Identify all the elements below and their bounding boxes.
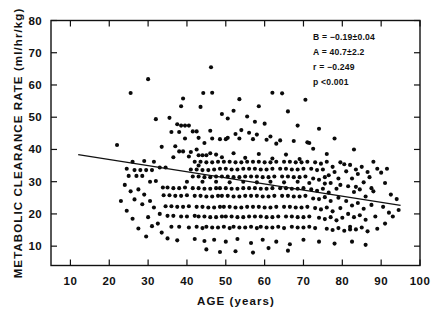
data-point: [235, 237, 239, 241]
data-point: [220, 194, 224, 198]
data-point: [280, 91, 284, 95]
data-point: [338, 160, 342, 164]
data-point: [154, 179, 158, 183]
data-point: [210, 136, 214, 140]
data-point: [123, 183, 127, 187]
data-point: [224, 214, 228, 218]
data-point: [197, 164, 201, 168]
x-tick-label: 20: [102, 275, 116, 287]
data-point: [331, 209, 335, 213]
data-point: [311, 147, 315, 151]
data-point: [214, 215, 218, 219]
y-tick-label: 50: [28, 111, 42, 123]
data-point: [167, 116, 171, 120]
data-point: [197, 186, 201, 190]
data-point: [313, 206, 317, 210]
data-point: [375, 167, 379, 171]
data-point: [263, 160, 267, 164]
data-point: [323, 195, 327, 199]
data-point: [136, 226, 140, 230]
data-point: [253, 214, 257, 218]
data-point: [391, 214, 395, 218]
data-point: [364, 218, 368, 222]
data-point: [251, 251, 255, 255]
data-point: [259, 187, 263, 191]
data-point: [385, 167, 389, 171]
data-point: [397, 208, 401, 212]
data-point: [179, 124, 183, 128]
data-point: [389, 193, 393, 197]
data-point: [132, 197, 136, 201]
data-point: [395, 197, 399, 201]
data-point: [268, 160, 272, 164]
data-point: [255, 174, 259, 178]
data-point: [334, 218, 338, 222]
data-point: [152, 205, 156, 209]
x-axis-title: AGE (years): [197, 295, 275, 307]
data-point: [144, 234, 148, 238]
data-point: [131, 217, 135, 221]
data-point: [243, 225, 247, 229]
data-point: [220, 155, 224, 159]
data-point: [161, 185, 165, 189]
data-point: [206, 205, 210, 209]
data-point: [301, 167, 305, 171]
data-point: [140, 202, 144, 206]
data-point: [247, 186, 251, 190]
data-point: [175, 122, 179, 126]
data-point: [171, 214, 175, 218]
data-point: [173, 144, 177, 148]
data-point: [187, 204, 191, 208]
data-point: [241, 186, 245, 190]
data-point: [276, 225, 280, 229]
data-point: [296, 180, 300, 184]
data-point: [158, 212, 162, 216]
data-point: [200, 205, 204, 209]
data-point: [331, 228, 335, 232]
data-point: [209, 65, 213, 69]
data-point: [127, 174, 131, 178]
data-point: [210, 225, 214, 229]
data-point: [346, 212, 350, 216]
data-point: [278, 167, 282, 171]
data-point: [210, 194, 214, 198]
data-point: [218, 250, 222, 254]
data-point: [259, 167, 263, 171]
data-point: [148, 180, 152, 184]
data-point: [282, 205, 286, 209]
data-point: [245, 115, 249, 119]
x-tick-label: 100: [410, 275, 430, 287]
scatter-plot-figure: METABOLIC CLEARANCE RATE (ml/hr/kg) 1020…: [0, 0, 444, 316]
data-point: [360, 225, 364, 229]
data-point: [282, 160, 286, 164]
data-point: [232, 109, 236, 113]
data-point: [169, 225, 173, 229]
data-point: [323, 217, 327, 221]
data-point: [177, 186, 181, 190]
data-point: [173, 194, 177, 198]
data-point: [249, 194, 253, 198]
data-point: [321, 167, 325, 171]
data-point: [280, 194, 284, 198]
plot-frame: [51, 21, 420, 266]
data-point: [138, 168, 142, 172]
data-point: [265, 225, 269, 229]
data-point: [369, 203, 373, 207]
data-point: [329, 215, 333, 219]
data-point: [329, 199, 333, 203]
data-point: [266, 194, 270, 198]
data-point: [319, 162, 323, 166]
data-point: [313, 226, 317, 230]
data-point: [195, 205, 199, 209]
y-tick-label: 80: [28, 15, 42, 27]
x-tick-label: 60: [258, 275, 272, 287]
axis-tick-marks: [51, 21, 420, 266]
data-point: [350, 176, 354, 180]
data-point: [201, 91, 205, 95]
data-point: [119, 199, 123, 203]
data-point: [243, 156, 247, 160]
data-point: [165, 185, 169, 189]
data-point: [251, 205, 255, 209]
data-point: [276, 214, 280, 218]
data-point: [243, 174, 247, 178]
